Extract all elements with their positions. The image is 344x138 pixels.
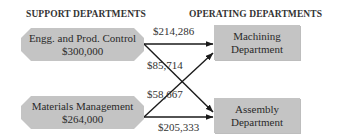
allocation-label-materials-machining: $58,667 <box>147 88 183 100</box>
assembly-name-line2: Department <box>231 116 283 129</box>
engg-prod-control-name: Engg. and Prod. Control <box>29 32 136 45</box>
assembly-department-box: Assembly Department <box>214 98 300 133</box>
allocation-label-engg-assembly: $85,714 <box>147 59 183 71</box>
allocation-label-materials-assembly: $205,333 <box>158 121 199 133</box>
engg-prod-control-box: Engg. and Prod. Control $300,000 <box>21 28 144 61</box>
arrow-engg-to-assembly <box>144 44 213 112</box>
materials-management-amount: $264,000 <box>62 113 103 126</box>
machining-department-box: Machining Department <box>214 25 300 60</box>
machining-name-line1: Machining <box>233 30 281 43</box>
engg-prod-control-amount: $300,000 <box>62 45 103 58</box>
assembly-name-line1: Assembly <box>235 103 279 116</box>
machining-name-line2: Department <box>231 43 283 56</box>
materials-management-box: Materials Management $264,000 <box>21 96 144 129</box>
allocation-label-engg-machining: $214,286 <box>153 25 194 37</box>
materials-management-name: Materials Management <box>32 100 134 113</box>
